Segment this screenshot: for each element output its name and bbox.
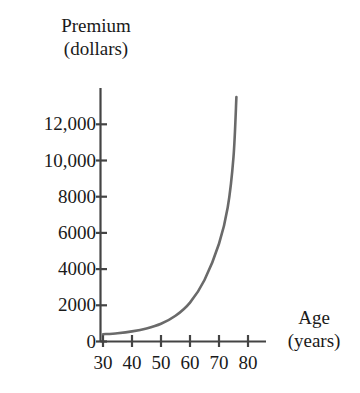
x-tick-label: 70: [210, 352, 229, 374]
y-tick-label: 10,000: [44, 150, 96, 172]
x-tick-label: 30: [94, 352, 113, 374]
y-tick-label: 12,000: [44, 113, 96, 135]
premium-curve: [103, 97, 236, 334]
x-tick-label: 60: [181, 352, 200, 374]
axes-group: [101, 88, 267, 342]
y-tick-label: 0: [87, 331, 97, 353]
x-tick-label: 40: [123, 352, 142, 374]
x-tick-label: 50: [152, 352, 171, 374]
y-tick-label: 8000: [58, 186, 96, 208]
chart-figure: Premium (dollars) Age (years) 0200040006…: [0, 0, 360, 393]
plot-area: [0, 0, 360, 393]
y-tick-label: 2000: [58, 294, 96, 316]
y-tick-label: 6000: [58, 222, 96, 244]
y-tick-label: 4000: [58, 258, 96, 280]
x-tick-label: 80: [239, 352, 258, 374]
